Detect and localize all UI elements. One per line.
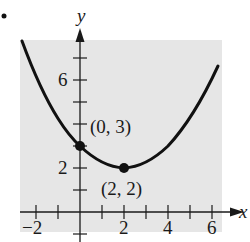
y-tick-label-6: 6: [58, 69, 68, 90]
x-tick-label-2: 2: [119, 217, 129, 238]
y-axis-label: y: [75, 5, 86, 26]
bullet-dot: [2, 14, 7, 19]
point-2-2: [119, 163, 129, 173]
point-0-3: [75, 141, 85, 151]
x-tick-label-4: 4: [163, 217, 173, 238]
point-label-2-2: (2, 2): [101, 178, 142, 200]
x-tick-label-6: 6: [207, 217, 217, 238]
y-tick-label-2: 2: [58, 157, 68, 178]
point-label-0-3: (0, 3): [90, 116, 131, 138]
chart-canvas: −2 2 4 6 2 6 x y (0, 3) (2, 2): [0, 0, 250, 242]
x-axis-label: x: [238, 201, 248, 222]
x-tick-label-neg2: −2: [22, 217, 42, 238]
y-axis-arrow-icon: [76, 28, 85, 42]
